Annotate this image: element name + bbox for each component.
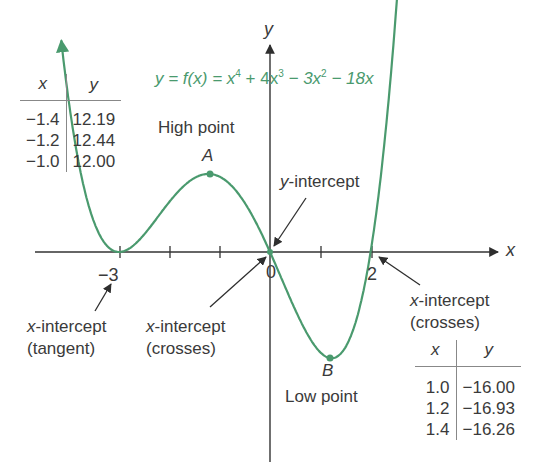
x-int-tangent-label: x-intercept (tangent)	[27, 316, 106, 360]
table-header: x y	[20, 74, 121, 101]
function-equation: y = f(x) = x4 + 4x3 − 3x2 − 18x	[155, 68, 373, 89]
arrow-y-intercept	[274, 198, 306, 246]
high-point-label: High point	[158, 118, 235, 138]
high-point-table: x y −1.412.19 −1.212.44 −1.012.00	[20, 74, 121, 172]
arrow-x-int-tangent	[95, 284, 111, 311]
tick-label-neg3: −3	[98, 265, 119, 285]
point-a-marker	[207, 171, 214, 178]
low-point-table: x y 1.0−16.00 1.2−16.93 1.4−16.26	[415, 340, 521, 440]
table-row: −1.412.19	[20, 101, 121, 131]
arrow-x-int-cross0	[210, 257, 266, 307]
tick-label-zero: 0	[266, 262, 276, 282]
table-row: −1.212.44	[20, 130, 121, 151]
table-header: x y	[415, 340, 521, 367]
figure: y x −3 0 2 y = f(x) = x4 + 4x3 − 3x2 − 1…	[0, 0, 550, 474]
y-intercept-label: y-intercept	[280, 172, 359, 192]
x-int-cross2-label: x-intercept (crosses)	[410, 290, 489, 334]
low-point-label: Low point	[285, 387, 358, 407]
y-axis-label: y	[264, 19, 273, 39]
point-b-label: B	[322, 361, 333, 381]
point-a-label: A	[202, 146, 213, 166]
table-row: 1.4−16.26	[415, 419, 521, 440]
x-axis-label: x	[506, 240, 515, 260]
table-row: 1.0−16.00	[415, 367, 521, 399]
table-row: 1.2−16.93	[415, 398, 521, 419]
origin-marker	[267, 249, 273, 255]
tick-label-two: 2	[367, 264, 377, 284]
x-int-cross0-label: x-intercept (crosses)	[146, 316, 225, 360]
arrow-x-int-cross2	[379, 257, 420, 285]
table-row: −1.012.00	[20, 151, 121, 172]
